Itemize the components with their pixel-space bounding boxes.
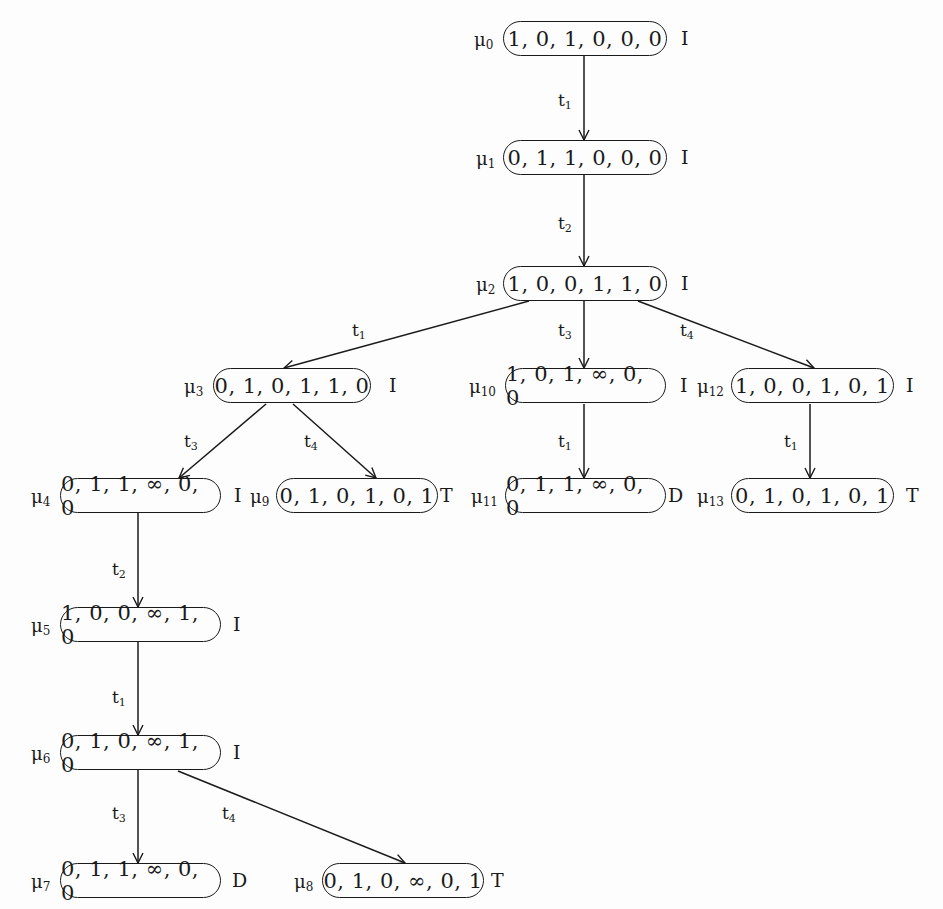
edge-label-mu4-mu5: t2 [112,561,126,580]
marking-mu7: 0, 1, 1, ∞, 0, 0 [61,857,220,905]
edge-mu2-mu3 [284,301,529,368]
node-tag-mu1: I [681,148,689,167]
node-name-mu4: μ4 [31,488,50,508]
marking-mu5: 1, 0, 0, ∞, 1, 0 [61,601,220,649]
coverability-tree-diagram: t1 t2 t1 t3 t4 t3 t4 t1 t1 t2 t1 t3 t4 μ… [0,0,943,909]
node-name-mu13: μ13 [697,488,724,508]
node-mu4: 0, 1, 1, ∞, 0, 0 [60,478,221,513]
edge-mu6-mu8 [178,771,405,863]
node-mu7: 0, 1, 1, ∞, 0, 0 [60,863,221,898]
node-tag-mu8: T [491,871,504,890]
edge-label-mu2-mu12: t4 [680,322,694,341]
marking-mu4: 0, 1, 1, ∞, 0, 0 [61,472,220,520]
edge-label-mu2-mu3: t1 [352,322,366,341]
edge-label-mu12-mu13: t1 [784,433,798,452]
node-tag-mu9: T [440,486,453,505]
node-mu13: 0, 1, 0, 1, 0, 1 [731,478,894,513]
marking-mu1: 0, 1, 1, 0, 0, 0 [508,146,663,170]
edge-label-mu6-mu8: t4 [222,805,236,824]
node-mu3: 0, 1, 0, 1, 1, 0 [213,368,371,403]
edge-label-mu1-mu2: t2 [558,215,572,234]
node-mu2: 1, 0, 0, 1, 1, 0 [503,266,667,301]
node-mu5: 1, 0, 0, ∞, 1, 0 [60,607,221,642]
node-tag-mu10: I [680,376,688,395]
node-tag-mu5: I [233,615,241,634]
marking-mu8: 0, 1, 0, ∞, 0, 1 [323,869,482,893]
marking-mu2: 1, 0, 0, 1, 1, 0 [508,272,663,296]
node-name-mu6: μ6 [31,745,50,765]
node-name-mu12: μ12 [697,378,724,398]
edge-mu2-mu12 [638,301,814,368]
node-tag-mu7: D [232,871,247,890]
edge-label-mu0-mu1: t1 [558,92,572,111]
node-name-mu10: μ10 [469,378,496,398]
node-mu8: 0, 1, 0, ∞, 0, 1 [322,863,484,898]
node-tag-mu11: D [668,486,683,505]
node-tag-mu3: I [389,376,397,395]
node-name-mu7: μ7 [31,873,50,893]
marking-mu6: 0, 1, 0, ∞, 1, 0 [61,729,220,777]
node-tag-mu2: I [681,274,689,293]
node-name-mu9: μ9 [250,488,269,508]
node-name-mu5: μ5 [31,617,50,637]
marking-mu12: 1, 0, 0, 1, 0, 1 [735,374,890,398]
edge-label-mu10-mu11: t1 [558,433,572,452]
node-name-mu11: μ11 [471,488,498,508]
node-mu6: 0, 1, 0, ∞, 1, 0 [60,735,221,770]
node-name-mu8: μ8 [294,873,313,893]
edge-label-mu2-mu10: t3 [558,322,572,341]
node-name-mu0: μ0 [474,31,493,51]
marking-mu11: 0, 1, 1, ∞, 0, 0 [506,472,665,520]
node-mu1: 0, 1, 1, 0, 0, 0 [503,140,667,175]
node-name-mu1: μ1 [476,150,495,170]
marking-mu0: 1, 0, 1, 0, 0, 0 [508,27,663,51]
edge-label-mu6-mu7: t3 [112,805,126,824]
node-tag-mu4: I [234,486,242,505]
marking-mu9: 0, 1, 0, 1, 0, 1 [280,484,435,508]
node-mu9: 0, 1, 0, 1, 0, 1 [276,478,438,513]
node-tag-mu12: I [906,376,914,395]
edge-label-mu5-mu6: t1 [112,689,126,708]
node-name-mu2: μ2 [476,276,495,296]
marking-mu3: 0, 1, 0, 1, 1, 0 [215,374,370,398]
node-tag-mu6: I [233,743,241,762]
marking-mu10: 1, 0, 1, ∞, 0, 0 [506,362,665,410]
node-tag-mu0: I [681,29,689,48]
node-mu10: 1, 0, 1, ∞, 0, 0 [505,368,666,403]
node-mu11: 0, 1, 1, ∞, 0, 0 [505,478,666,513]
edge-label-mu3-mu4: t3 [184,433,198,452]
node-mu0: 1, 0, 1, 0, 0, 0 [503,21,667,56]
edge-label-mu3-mu9: t4 [304,433,318,452]
marking-mu13: 0, 1, 0, 1, 0, 1 [735,484,890,508]
node-name-mu3: μ3 [184,378,203,398]
node-tag-mu13: T [906,486,919,505]
node-mu12: 1, 0, 0, 1, 0, 1 [731,368,894,403]
